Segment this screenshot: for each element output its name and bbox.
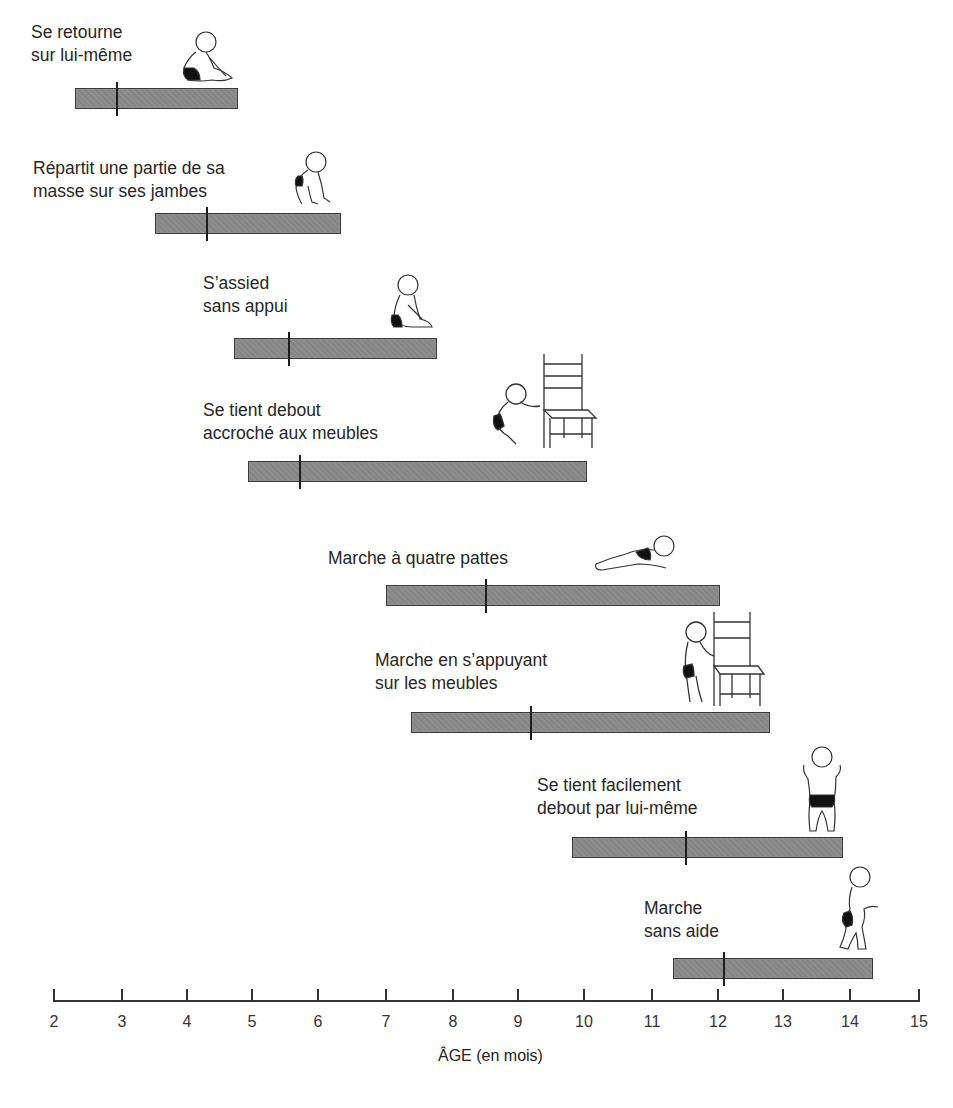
label-line: Marche à quatre pattes [328,547,508,570]
label-line: Répartit une partie de sa [33,157,225,180]
baby-rolling-over-icon [166,28,236,86]
baby-walking-icon [836,865,882,953]
milestone-label-pulls-to-stand: Se tient debout accroché aux meubles [203,399,378,445]
milestone-label-bears-weight: Répartit une partie de sa masse sur ses … [33,157,225,203]
x-tick [385,989,387,1001]
x-tick-label: 4 [172,1013,202,1031]
label-line: sur les meubles [375,672,547,695]
bar-walks-alone [673,958,873,979]
x-tick [583,989,585,1001]
milestone-label-sits: S’assied sans appui [203,272,288,318]
x-tick-label: 10 [569,1013,599,1031]
label-line: Marche en s’appuyant [375,649,547,672]
x-tick [918,989,920,1001]
x-tick [186,989,188,1001]
label-line: debout par lui-même [537,797,698,820]
median-sits [288,332,290,366]
median-rolls-over [116,82,118,116]
baby-standing-icon [800,745,846,835]
bar-bears-weight [155,213,341,234]
x-tick [251,989,253,1001]
bar-sits [234,338,437,359]
x-tick [517,989,519,1001]
bar-rolls-over [75,88,238,109]
x-tick [452,989,454,1001]
x-tick-label: 7 [371,1013,401,1031]
milestone-label-walks-alone: Marche sans aide [644,897,719,943]
x-tick-label: 5 [237,1013,267,1031]
x-tick-label: 11 [637,1013,667,1031]
x-tick-label: 12 [703,1013,733,1031]
x-tick [53,989,55,1001]
label-line: S’assied [203,272,288,295]
median-walks-alone [723,952,725,986]
milestone-label-cruises: Marche en s’appuyant sur les meubles [375,649,547,695]
label-line: sans appui [203,295,288,318]
x-tick [121,989,123,1001]
milestone-label-crawls: Marche à quatre pattes [328,547,508,570]
x-tick [849,989,851,1001]
x-axis-line [53,1000,920,1002]
label-line: sur lui-même [31,44,132,67]
x-tick-label: 14 [835,1013,865,1031]
x-tick-label: 13 [768,1013,798,1031]
x-tick [317,989,319,1001]
x-tick [717,989,719,1001]
bar-cruises [411,712,770,733]
median-crawls [485,579,487,613]
milestone-label-rolls-over: Se retourne sur lui-même [31,21,132,67]
label-line: Se retourne [31,21,132,44]
x-axis-title: ÂGE (en mois) [438,1047,543,1065]
x-tick-label: 3 [107,1013,137,1031]
median-bears-weight [206,207,208,241]
median-stands-alone [685,831,687,865]
baby-crawling-icon [592,534,678,576]
label-line: sans aide [644,920,719,943]
x-tick [651,989,653,1001]
label-line: Se tient facilement [537,774,698,797]
x-tick-label: 9 [503,1013,533,1031]
label-line: masse sur ses jambes [33,180,225,203]
bar-stands-alone [572,837,843,858]
x-tick [782,989,784,1001]
label-line: Marche [644,897,719,920]
label-line: accroché aux meubles [203,422,378,445]
milestone-label-stands-alone: Se tient facilement debout par lui-même [537,774,698,820]
baby-sitting-icon [386,273,436,331]
x-tick-label: 8 [438,1013,468,1031]
x-tick-label: 2 [39,1013,69,1031]
baby-pulling-up-on-chair-icon [492,352,604,452]
median-pulls-to-stand [299,455,301,489]
bar-crawls [386,585,720,606]
x-tick-label: 15 [904,1013,934,1031]
baby-cruising-chair-icon [680,610,772,708]
label-line: Se tient debout [203,399,378,422]
x-tick-label: 6 [303,1013,333,1031]
baby-bearing-weight-icon [288,150,334,208]
median-cruises [530,706,532,740]
